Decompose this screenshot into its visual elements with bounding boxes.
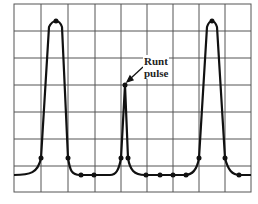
runt-label-line2: pulse	[144, 67, 168, 79]
sample-dots	[39, 19, 242, 178]
runt-pulse-label: Runt pulse	[143, 55, 169, 79]
waveform-trace	[14, 21, 251, 175]
oscilloscope-diagram	[0, 0, 258, 204]
runt-label-line1: Runt	[144, 55, 168, 67]
arrow-icon	[127, 67, 143, 82]
